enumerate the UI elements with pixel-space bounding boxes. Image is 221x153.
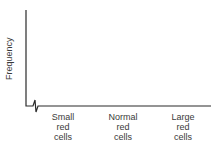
category-label: Normal bbox=[98, 112, 148, 122]
category-large: Large red cells bbox=[158, 112, 208, 142]
category-label: red bbox=[158, 122, 208, 132]
category-label: red bbox=[98, 122, 148, 132]
category-label: cells bbox=[158, 132, 208, 142]
category-label: cells bbox=[38, 132, 88, 142]
category-label: cells bbox=[98, 132, 148, 142]
category-label: red bbox=[38, 122, 88, 132]
category-small: Small red cells bbox=[38, 112, 88, 142]
category-normal: Normal red cells bbox=[98, 112, 148, 142]
category-label: Large bbox=[158, 112, 208, 122]
y-axis-label: Frequency bbox=[4, 37, 14, 80]
y-axis bbox=[26, 10, 211, 112]
category-label: Small bbox=[38, 112, 88, 122]
